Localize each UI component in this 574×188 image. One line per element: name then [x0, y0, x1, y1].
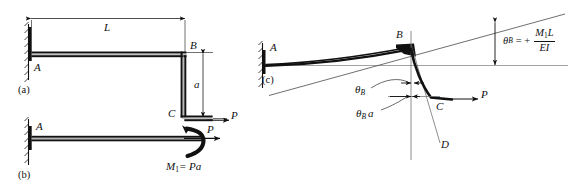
force-label-p-panel-b: P	[207, 124, 214, 135]
angle-offset-label-theta-b-a: θBa	[356, 108, 374, 121]
force-label-p-panel-a: P	[231, 110, 238, 121]
dimension-label-L: L	[104, 22, 110, 33]
line-b-to-d	[411, 44, 440, 143]
formula-theta-b: θB = + M1L EI	[503, 27, 555, 53]
point-label-b-panel-a: B	[190, 40, 197, 51]
leader-theta-b-a	[381, 98, 406, 111]
point-label-c-panel-a: C	[168, 108, 175, 119]
panel-a-graphics	[25, 19, 230, 122]
support-label-a-panel-c: A	[270, 42, 277, 53]
member-bc	[181, 52, 187, 118]
moment-label-m1: M1= Pa	[166, 161, 201, 174]
panel-label-a: (a)	[18, 85, 30, 96]
fixed-support-a	[25, 22, 32, 82]
angle-label-theta-b: θB	[355, 84, 365, 97]
panel-b-graphics	[25, 117, 221, 165]
panel-label-c: (c)	[262, 75, 274, 86]
panel-label-b: (b)	[18, 170, 30, 181]
beam-b	[32, 136, 204, 141]
support-label-a-panel-b: A	[36, 121, 43, 132]
dimension-label-a: a	[194, 79, 200, 90]
leader-theta-b	[371, 80, 408, 88]
support-label-a-panel-a: A	[34, 62, 41, 73]
force-label-p-panel-c: P	[481, 89, 488, 100]
beam-deflection-figure: L A B C a P (a) A P M1= Pa (b) A B C D P…	[0, 0, 574, 188]
point-label-b-panel-c: B	[396, 29, 403, 40]
deflected-member-bc	[411, 49, 452, 100]
beam-ab	[32, 52, 187, 58]
dimension-a	[187, 53, 228, 119]
point-label-d-panel-c: D	[441, 139, 449, 150]
point-label-c-panel-c: C	[436, 101, 443, 112]
fixed-support-b	[25, 117, 32, 165]
